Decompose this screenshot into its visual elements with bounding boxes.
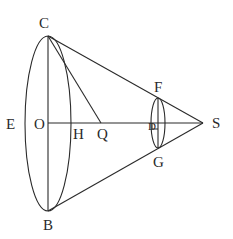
label-H: H	[73, 126, 84, 142]
label-F: F	[154, 79, 162, 95]
line-CQ	[48, 36, 101, 123]
label-Q: Q	[97, 126, 108, 142]
label-D: D	[148, 120, 156, 132]
label-S: S	[212, 115, 220, 131]
label-G: G	[153, 154, 164, 170]
label-B: B	[43, 217, 53, 233]
cone-diagram: C B E O H Q D F G S	[0, 0, 233, 239]
label-O: O	[34, 116, 45, 132]
label-E: E	[6, 116, 15, 132]
label-C: C	[39, 15, 49, 31]
